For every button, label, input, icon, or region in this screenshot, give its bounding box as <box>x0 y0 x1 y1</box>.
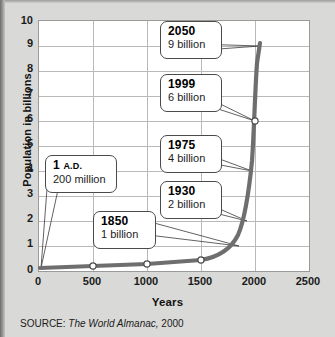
y-tick-1: 1 <box>7 238 33 249</box>
y-axis-label: Population in billions <box>21 40 33 220</box>
source-publication: The World Almanac, <box>68 318 158 329</box>
callout-2050-value: 9 billion <box>168 38 215 51</box>
callout-1ad-era: A.D. <box>63 161 82 171</box>
callout-1930-value: 2 billion <box>168 198 215 211</box>
callout-1850-year: 1850 <box>101 215 149 228</box>
chart-page: 10 9 8 7 6 5 4 3 2 1 0 0 500 1000 1500 2… <box>0 0 335 337</box>
source-prefix: SOURCE: <box>20 318 66 329</box>
callout-1975-value: 4 billion <box>168 152 215 165</box>
source-year: 2000 <box>161 318 183 329</box>
data-point-1999 <box>252 118 258 124</box>
data-point-500 <box>90 263 96 269</box>
callout-1975-year: 1975 <box>168 139 215 152</box>
callout-1930-year: 1930 <box>168 185 215 198</box>
callout-1ad[interactable]: 1 A.D. 200 million <box>45 155 117 193</box>
data-point-1000 <box>144 261 150 267</box>
x-tick-2000: 2000 <box>231 276 277 287</box>
callout-1999-year: 1999 <box>168 78 215 91</box>
x-tick-0: 0 <box>15 276 61 287</box>
callout-1999-value: 6 billion <box>168 91 215 104</box>
callout-1975[interactable]: 1975 4 billion <box>160 135 222 173</box>
page-top-edge <box>0 0 335 3</box>
callout-2050-year: 2050 <box>168 25 215 38</box>
x-tick-2500: 2500 <box>285 276 331 287</box>
callout-1930[interactable]: 1930 2 billion <box>160 181 222 219</box>
page-left-edge <box>0 0 5 337</box>
callout-2050[interactable]: 2050 9 billion <box>160 21 222 59</box>
y-tick-10: 10 <box>7 15 33 26</box>
callout-1999[interactable]: 1999 6 billion <box>160 74 222 112</box>
x-tick-1500: 1500 <box>177 276 223 287</box>
y-tick-0: 0 <box>7 264 33 275</box>
x-axis-label: Years <box>0 296 335 308</box>
callout-1850[interactable]: 1850 1 billion <box>93 211 156 249</box>
callout-1ad-value: 200 million <box>53 173 110 186</box>
x-tick-500: 500 <box>69 276 115 287</box>
source-note: SOURCE: The World Almanac, 2000 <box>20 318 184 329</box>
callout-1ad-year: 1 A.D. <box>53 159 110 173</box>
x-tick-1000: 1000 <box>123 276 169 287</box>
callout-1850-value: 1 billion <box>101 228 149 241</box>
data-point-1500 <box>198 257 204 263</box>
